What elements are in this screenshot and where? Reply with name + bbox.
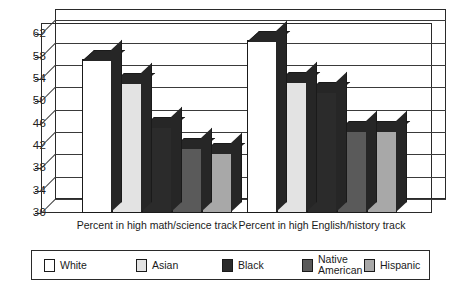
legend-swatch-icon [222, 259, 233, 272]
bar [82, 59, 112, 213]
legend-item[interactable]: Hispanic [364, 259, 420, 272]
bar-chart: 303438424650545862 Percent in high math/… [0, 0, 461, 288]
bar-side-face [111, 40, 122, 212]
bar-side-face [336, 72, 347, 212]
legend-item-label: Hispanic [380, 260, 420, 271]
legend-item-label: Native American [318, 254, 362, 276]
legend-item-label: Asian [152, 260, 178, 271]
bar-side-face [171, 107, 182, 212]
legend-item[interactable]: White [44, 259, 87, 272]
bar-side-face [396, 111, 407, 212]
bar-side-face [201, 128, 212, 212]
bar-side-face [306, 61, 317, 212]
gridline [55, 20, 446, 21]
plot-area [55, 9, 446, 213]
legend-swatch-icon [44, 259, 55, 272]
chart-legend: WhiteAsianBlackNative AmericanHispanic [31, 250, 430, 280]
x-axis-label-group1: Percent in high math/science track [67, 219, 247, 231]
legend-item[interactable]: Black [222, 259, 264, 272]
legend-swatch-icon [364, 259, 375, 272]
x-axis-label-group2: Percent in high English/history track [227, 219, 417, 231]
bar-side-face [366, 111, 377, 212]
legend-item[interactable]: Native American [302, 254, 362, 276]
legend-item-label: White [60, 260, 87, 271]
legend-swatch-icon [302, 259, 313, 272]
bar-side-face [276, 21, 287, 212]
bar-side-face [141, 62, 152, 212]
legend-swatch-icon [136, 259, 147, 272]
bar-side-face [231, 132, 242, 212]
bars-layer [41, 23, 432, 213]
legend-item[interactable]: Asian [136, 259, 178, 272]
bar [247, 40, 277, 213]
legend-item-label: Black [238, 260, 264, 271]
